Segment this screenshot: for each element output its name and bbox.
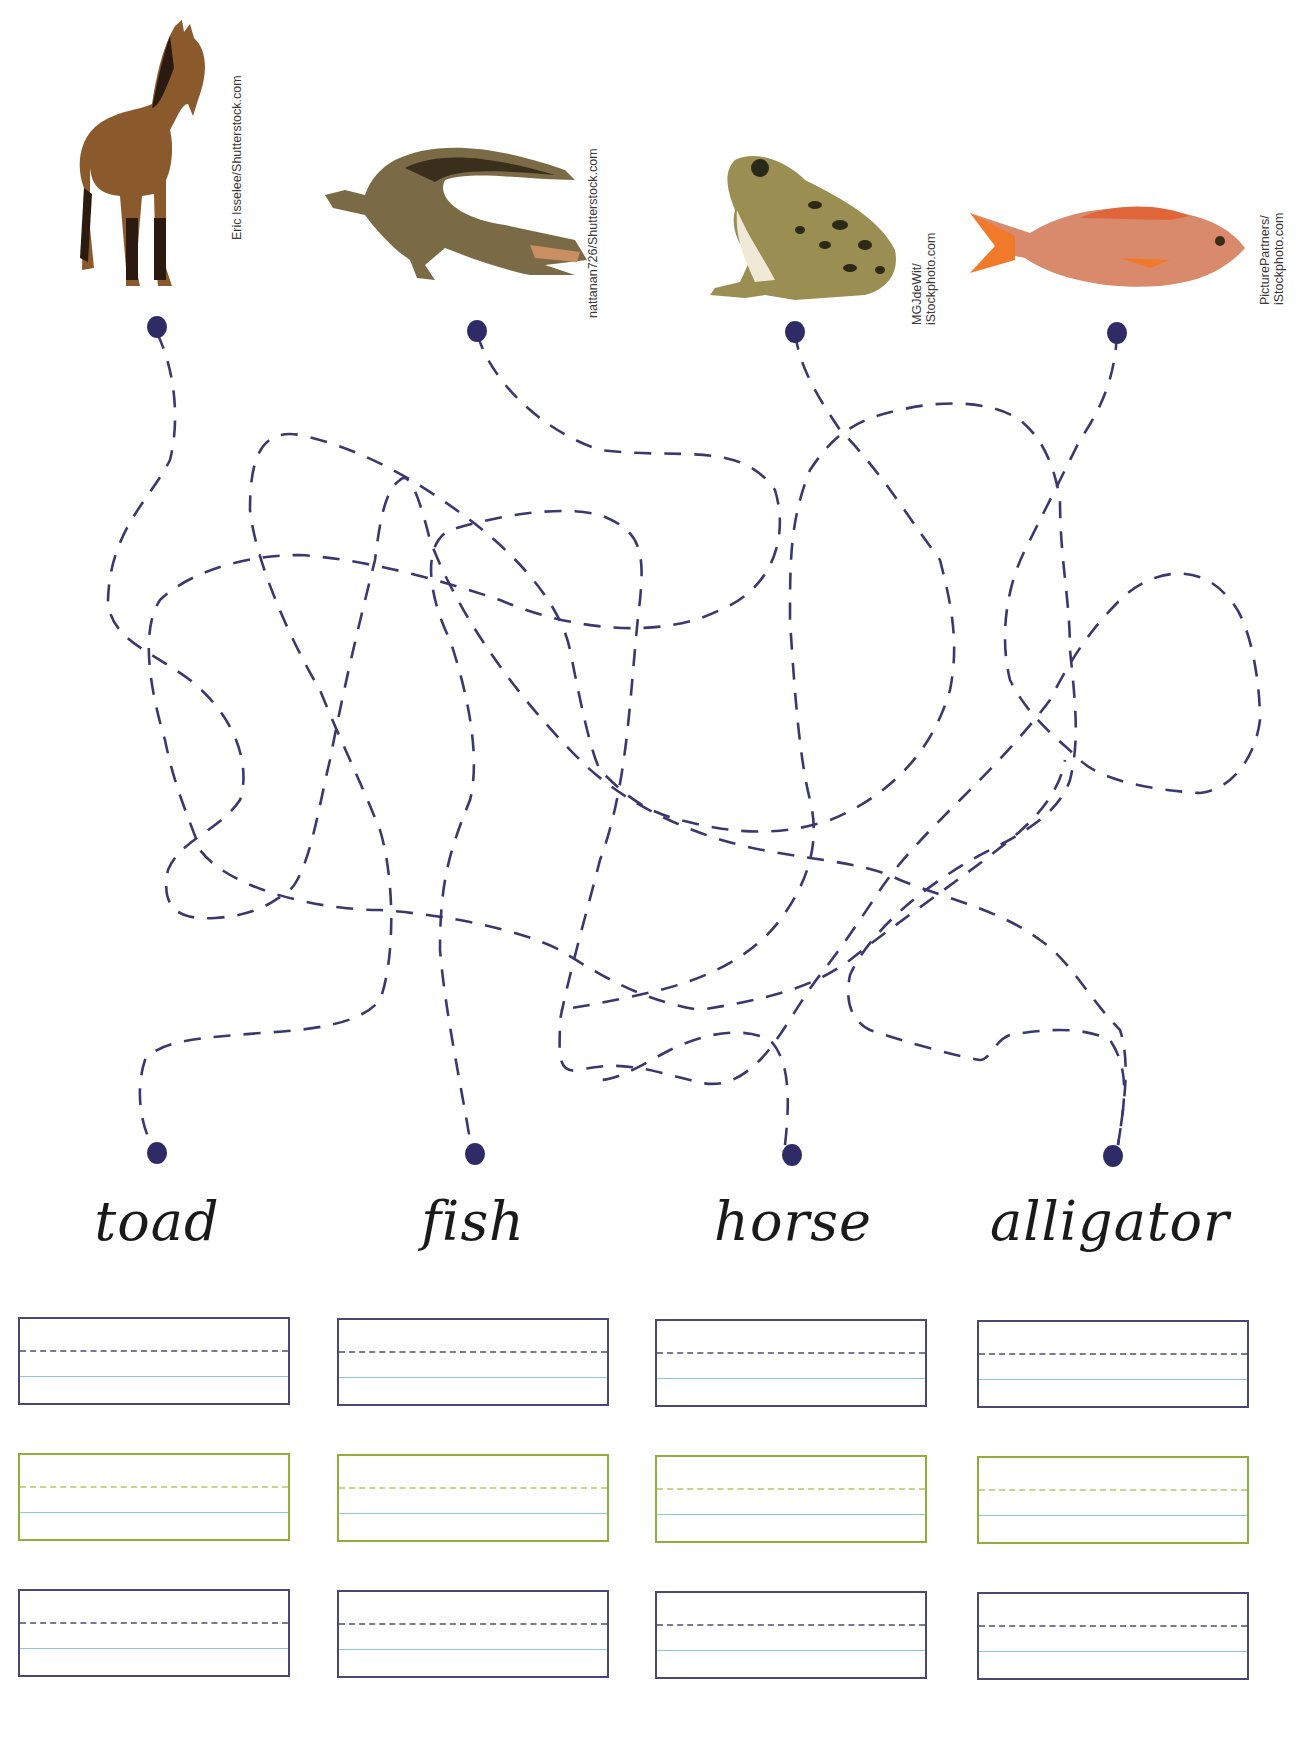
writing-box-row1-alligator[interactable]	[977, 1320, 1249, 1408]
writing-box-row2-horse[interactable]	[655, 1455, 927, 1543]
trace-line-horse-word	[600, 1033, 788, 1145]
dot-horse-top	[147, 316, 167, 338]
writing-box-row3-horse[interactable]	[655, 1591, 927, 1679]
writing-box-row1-toad[interactable]	[18, 1317, 290, 1405]
writing-box-row1-fish[interactable]	[337, 1318, 609, 1406]
endpoint-dots	[147, 316, 1127, 1167]
dot-fish-bottom	[465, 1143, 485, 1165]
writing-box-row2-fish[interactable]	[337, 1454, 609, 1542]
word-label-fish: fish	[323, 1190, 623, 1253]
dot-horse-bottom	[782, 1144, 802, 1166]
trace-line-toad	[140, 333, 954, 1153]
trace-line-horse	[108, 333, 1126, 1145]
dot-fish-top	[1107, 322, 1127, 344]
word-label-horse: horse	[643, 1190, 943, 1253]
word-label-alligator: alligator	[960, 1190, 1260, 1253]
word-label-toad: toad	[7, 1190, 307, 1253]
trace-line-bottom-right	[560, 403, 1124, 1145]
writing-box-row3-alligator[interactable]	[977, 1592, 1249, 1680]
writing-box-row2-toad[interactable]	[18, 1453, 290, 1541]
writing-box-row3-toad[interactable]	[18, 1589, 290, 1677]
writing-box-row1-horse[interactable]	[655, 1319, 927, 1407]
dot-toad-top	[785, 321, 805, 343]
trace-line-fish	[431, 333, 1260, 1140]
dot-alligator-top	[467, 320, 487, 342]
dot-alligator-bottom	[1103, 1145, 1123, 1167]
writing-box-row2-alligator[interactable]	[977, 1456, 1249, 1544]
writing-box-row3-fish[interactable]	[337, 1590, 609, 1678]
dot-toad-bottom	[147, 1142, 167, 1164]
